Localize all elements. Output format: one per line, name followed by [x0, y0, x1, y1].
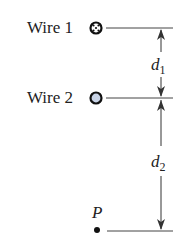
- point-p-label: P: [92, 204, 102, 221]
- d1-label: d1: [151, 56, 166, 73]
- d2-variable: d: [151, 152, 160, 171]
- wire2-circle-icon: [91, 93, 102, 104]
- d2-label: d2: [151, 153, 166, 170]
- d1-variable: d: [151, 55, 160, 74]
- wire1-into-page-icon: [91, 23, 102, 34]
- wire2-label: Wire 2: [27, 89, 73, 106]
- d1-subscript: 1: [160, 63, 166, 77]
- wire1-label: Wire 1: [27, 19, 73, 36]
- d2-subscript: 2: [160, 160, 166, 174]
- point-p-dot: [94, 227, 100, 233]
